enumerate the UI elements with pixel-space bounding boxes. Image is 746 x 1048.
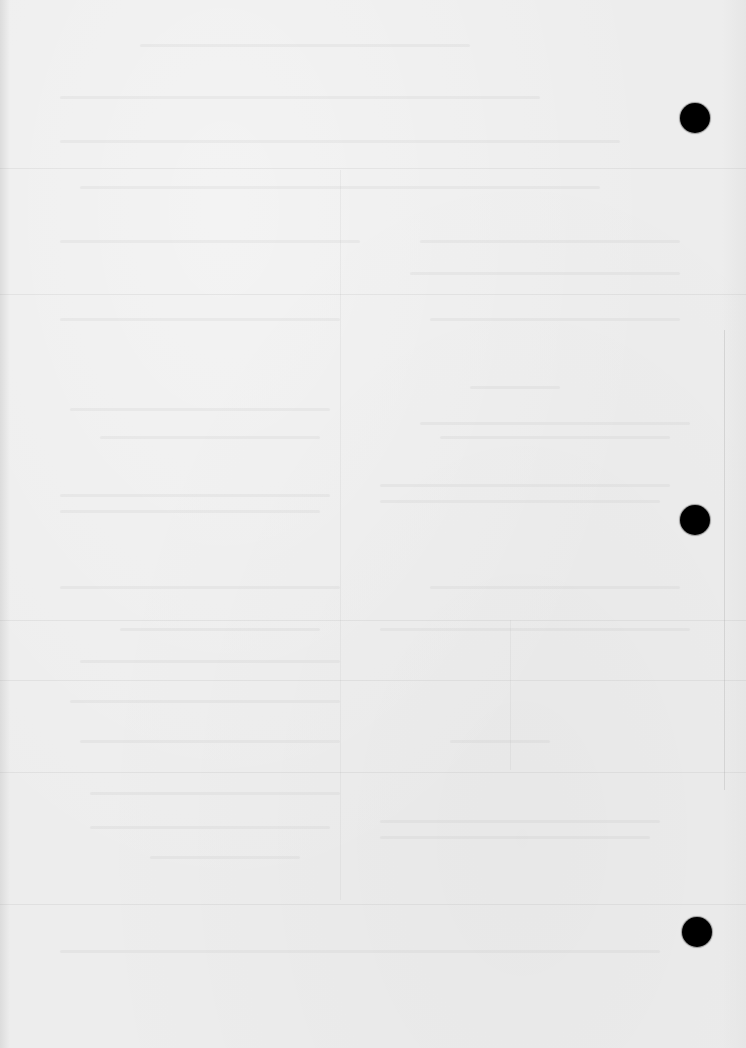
bleed-text-line xyxy=(70,408,330,411)
bleed-text-line xyxy=(420,422,690,425)
bleed-text-line xyxy=(410,272,680,275)
bleed-text-line xyxy=(150,856,300,859)
bleed-text-line xyxy=(430,586,680,589)
bleed-text-line xyxy=(60,240,360,243)
bleed-text-line xyxy=(90,792,340,795)
bleed-text-line xyxy=(380,836,650,839)
bleed-text-line xyxy=(100,436,320,439)
bleed-table-rule xyxy=(0,294,746,295)
bleed-text-line xyxy=(60,510,320,513)
bleed-column-divider xyxy=(340,170,341,900)
punch-hole-top xyxy=(680,103,710,133)
bleed-table-rule xyxy=(0,772,746,773)
bleed-text-line xyxy=(60,494,330,497)
bleed-text-line xyxy=(470,386,560,389)
bleed-text-line xyxy=(80,740,340,743)
bleed-text-line xyxy=(60,140,620,143)
bleed-text-line xyxy=(120,628,320,631)
bleed-text-line xyxy=(60,586,340,589)
bleed-table-rule xyxy=(0,168,746,169)
page-right-edge-shadow xyxy=(722,0,746,1048)
punch-hole-middle xyxy=(680,505,710,535)
bleed-text-line xyxy=(420,240,680,243)
bleed-text-line xyxy=(430,318,680,321)
page-left-edge-shadow xyxy=(0,0,10,1048)
bleed-text-line xyxy=(380,820,660,823)
reverse-side-bleed-through xyxy=(0,0,746,1048)
bleed-text-line xyxy=(80,186,600,189)
bleed-table-rule xyxy=(0,680,746,681)
bleed-column-divider xyxy=(510,620,511,770)
bleed-text-line xyxy=(140,44,470,47)
bleed-text-line xyxy=(70,700,340,703)
bleed-text-line xyxy=(440,436,670,439)
bleed-text-line xyxy=(60,318,340,321)
bleed-text-line xyxy=(60,950,660,953)
bleed-text-line xyxy=(380,484,670,487)
bleed-text-line xyxy=(60,96,540,99)
bleed-text-line xyxy=(80,660,340,663)
punch-hole-bottom xyxy=(682,917,712,947)
bleed-text-line xyxy=(380,500,660,503)
page-crease-line xyxy=(724,330,725,790)
bleed-text-line xyxy=(380,628,690,631)
bleed-text-line xyxy=(450,740,550,743)
scanned-page xyxy=(0,0,746,1048)
bleed-table-rule xyxy=(0,620,746,621)
bleed-table-rule xyxy=(0,904,746,905)
bleed-text-line xyxy=(90,826,330,829)
